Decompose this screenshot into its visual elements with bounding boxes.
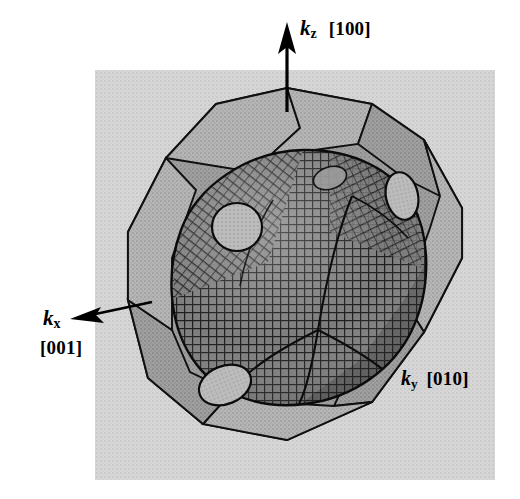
kz-axis-label: kz[100] <box>300 18 371 41</box>
fermi-surface-figure <box>0 0 520 499</box>
ky-symbol: k <box>401 367 411 389</box>
kx-symbol: k <box>43 306 54 330</box>
kz-subscript: z <box>311 26 317 41</box>
neck-upper-left <box>212 203 262 251</box>
ky-miller-index: [010] <box>427 368 469 389</box>
figure-container: kz[100] kx [001] ky[010] <box>0 0 520 499</box>
kz-miller-index: [100] <box>329 18 371 39</box>
kx-axis-label: kx <box>43 308 60 331</box>
kx-miller-index: [001] <box>40 338 82 357</box>
kx-subscript: x <box>54 316 61 331</box>
ky-subscript: y <box>411 376 418 391</box>
kz-symbol: k <box>300 16 311 40</box>
ky-axis-label: ky[010] <box>401 368 469 390</box>
